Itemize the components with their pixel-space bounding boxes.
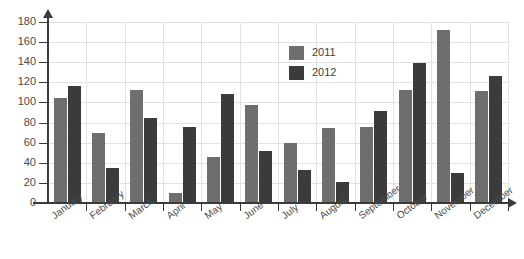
bar-february-2011 — [92, 133, 105, 203]
bar-january-2012 — [68, 86, 81, 203]
gridline-vertical — [508, 22, 509, 203]
y-axis-label: 160 — [18, 36, 36, 47]
bar-october-2011 — [399, 90, 412, 203]
legend-swatch-icon-2011 — [289, 46, 304, 60]
y-axis-label: 140 — [18, 56, 36, 67]
y-axis-label: 40 — [24, 157, 36, 168]
x-axis-tick — [278, 204, 279, 211]
y-axis-tick — [39, 102, 48, 103]
bar-may-2012 — [221, 94, 234, 203]
y-axis-tick — [39, 82, 48, 83]
bar-august-2011 — [322, 128, 335, 203]
gridline-vertical — [201, 22, 202, 203]
bar-chart: 020406080100120140160180 JanuaryFebruary… — [0, 0, 524, 259]
legend-swatch-icon-2012 — [289, 66, 304, 80]
y-axis-label: 0 — [30, 197, 36, 208]
bar-september-2011 — [360, 127, 373, 203]
x-axis-tick — [201, 204, 202, 211]
gridline-vertical — [125, 22, 126, 203]
x-axis-tick — [316, 204, 317, 211]
y-axis-tick — [39, 42, 48, 43]
x-axis-tick — [431, 204, 432, 211]
x-axis-tick — [470, 204, 471, 211]
gridline-vertical — [355, 22, 356, 203]
y-axis-tick — [39, 143, 48, 144]
bar-december-2011 — [475, 91, 488, 203]
x-axis-tick — [240, 204, 241, 211]
bar-july-2012 — [298, 170, 311, 203]
legend-item-2012[interactable]: 2012 — [289, 64, 336, 81]
x-axis-label-may: May — [203, 202, 224, 221]
y-axis-tick — [39, 163, 48, 164]
x-axis-label-july: July — [280, 202, 300, 221]
gridline-vertical — [393, 22, 394, 203]
y-axis-label: 80 — [24, 117, 36, 128]
gridline-vertical — [240, 22, 241, 203]
legend: 2011 2012 — [289, 44, 336, 84]
bar-december-2012 — [489, 76, 502, 203]
y-axis-label: 60 — [24, 137, 36, 148]
gridline-vertical — [431, 22, 432, 203]
x-axis-tick — [355, 204, 356, 211]
bar-november-2011 — [437, 30, 450, 203]
bar-june-2011 — [245, 105, 258, 203]
plot-area — [48, 22, 508, 203]
y-axis-tick — [39, 183, 48, 184]
gridline-vertical — [470, 22, 471, 203]
bar-july-2011 — [284, 143, 297, 203]
x-axis-tick — [86, 204, 87, 211]
y-axis-label: 120 — [18, 76, 36, 87]
bar-april-2012 — [183, 127, 196, 203]
y-axis-tick — [39, 22, 48, 23]
y-axis-tick — [39, 203, 48, 204]
y-axis-tick — [39, 62, 48, 63]
x-axis-tick — [393, 204, 394, 211]
y-axis-tick — [39, 123, 48, 124]
gridline-vertical — [278, 22, 279, 203]
y-axis-label: 100 — [18, 96, 36, 107]
y-axis-label: 20 — [24, 177, 36, 188]
x-axis-tick — [163, 204, 164, 211]
y-axis-arrow-icon — [43, 9, 53, 18]
x-axis-tick — [508, 204, 509, 211]
bar-march-2011 — [130, 90, 143, 203]
legend-item-2011[interactable]: 2011 — [289, 44, 336, 61]
legend-label-2012: 2012 — [312, 67, 336, 78]
x-axis-tick — [125, 204, 126, 211]
bar-june-2012 — [259, 151, 272, 203]
bar-march-2012 — [144, 118, 157, 203]
x-axis-arrow-icon — [508, 198, 517, 208]
y-axis-line — [47, 16, 49, 204]
bar-january-2011 — [54, 98, 67, 203]
y-axis-label: 180 — [18, 16, 36, 27]
bar-october-2012 — [413, 63, 426, 203]
gridline-vertical — [86, 22, 87, 203]
legend-label-2011: 2011 — [312, 47, 336, 58]
gridline-vertical — [163, 22, 164, 203]
bar-may-2011 — [207, 157, 220, 203]
